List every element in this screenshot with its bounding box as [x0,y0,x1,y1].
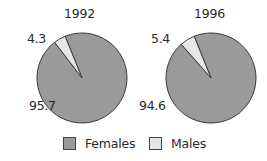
males-value-label-1996: 5.4 [151,31,170,46]
legend-label-males: Males [171,136,206,151]
legend-label-females: Females [85,136,135,151]
legend-item-males: Males [149,136,206,151]
pie-title-1996: 1996 [194,6,225,21]
males-swatch [149,137,162,150]
pie-chart-1996: 1996 5.4 94.6 [131,0,264,125]
males-value-label-1992: 4.3 [27,31,46,46]
pie-chart-1992: 1992 4.3 95.7 [0,0,133,125]
pie-title-1992: 1992 [64,6,95,21]
females-swatch [63,137,76,150]
legend-item-females: Females [63,136,135,151]
pie-graphic-1996 [164,31,258,125]
females-value-label-1996: 94.6 [139,98,166,113]
females-value-label-1992: 95.7 [29,98,56,113]
chart-legend: Females Males [0,136,267,156]
